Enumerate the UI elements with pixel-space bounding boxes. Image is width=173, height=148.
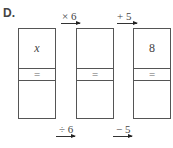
box-2: = — [76, 28, 114, 119]
box-2-bottom — [77, 81, 113, 118]
inverse-arrow-1-icon — [56, 136, 75, 137]
box-1-equals: = — [19, 68, 55, 81]
box-3-top: 8 — [134, 29, 170, 68]
box-2-top — [77, 29, 113, 68]
box-1-top: x — [19, 29, 55, 68]
forward-op-add-label: + 5 — [117, 11, 131, 22]
box-1: x = — [18, 28, 56, 119]
inverse-arrow-2-icon — [113, 136, 132, 137]
box-1-bottom — [19, 81, 55, 118]
box-3-bottom — [134, 81, 170, 118]
forward-op-multiply-label: × 6 — [62, 11, 76, 22]
diagram-label: D. — [3, 6, 15, 20]
box-3-equals: = — [134, 68, 170, 81]
box-2-equals: = — [77, 68, 113, 81]
forward-arrow-1-icon — [61, 23, 80, 24]
forward-arrow-2-icon — [117, 23, 137, 24]
box-3: 8 = — [133, 28, 171, 119]
